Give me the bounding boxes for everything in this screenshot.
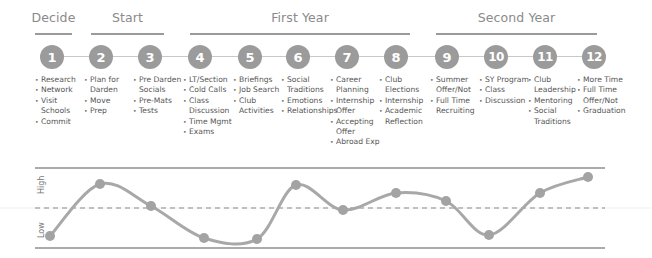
section-underline	[91, 33, 164, 35]
step-item: Visit	[35, 96, 76, 106]
step-circle-8: 8	[384, 45, 408, 69]
step-item: Career	[330, 75, 380, 85]
step-item: Offer	[330, 127, 380, 137]
step-item: Commit	[35, 117, 76, 127]
step-item: Traditions	[528, 117, 576, 127]
step-items-2: Plan forDardenMovePrep	[84, 75, 119, 117]
step-item: Offer/Not	[577, 96, 626, 106]
step-items-7: CareerPlanningInternshipOfferAcceptingOf…	[330, 75, 380, 148]
step-item: Reflection	[379, 117, 423, 127]
step-item: Prep	[84, 106, 119, 116]
timeline-connector	[52, 56, 594, 57]
section-underline	[436, 33, 597, 35]
step-items-12: More TimeFull TimeOffer/NotGraduation	[577, 75, 626, 117]
step-item: Club	[233, 96, 279, 106]
step-circle-2: 2	[89, 45, 113, 69]
step-item: Move	[84, 96, 119, 106]
data-point-1	[45, 231, 55, 241]
step-circle-9: 9	[435, 45, 459, 69]
step-items-11: ClubLeadershipMentoringSocialTraditions	[528, 75, 576, 127]
step-item: Darden	[84, 85, 119, 95]
step-item: Pre-Mats	[133, 96, 181, 106]
step-item: Club	[528, 75, 576, 85]
step-item: Full Time	[430, 96, 475, 106]
step-item: Internship	[379, 96, 423, 106]
step-item: Internship	[330, 96, 380, 106]
experience-curve	[50, 177, 588, 244]
step-item: Time Mgmt	[183, 117, 232, 127]
step-items-4: LT/SectionCold CallsClassDiscussionTime …	[183, 75, 232, 137]
step-items-1: ResearchNetworkVisitSchoolsCommit	[35, 75, 76, 127]
step-item: Planning	[330, 85, 380, 95]
step-item: Class	[183, 96, 232, 106]
step-item: Exams	[183, 127, 232, 137]
step-item: Cold Calls	[183, 85, 232, 95]
step-item: Offer/Not	[430, 85, 475, 95]
data-point-11	[535, 188, 545, 198]
step-item: Class	[479, 85, 529, 95]
step-item: Mentoring	[528, 96, 576, 106]
step-item: Discussion	[479, 96, 529, 106]
data-point-6	[291, 180, 301, 190]
data-point-12	[583, 172, 593, 182]
step-item: Summer	[430, 75, 475, 85]
step-item: Pre Darden	[133, 75, 181, 85]
data-point-10	[484, 230, 494, 240]
step-item: Tests	[133, 106, 181, 116]
section-title: First Year	[170, 10, 430, 25]
step-circle-3: 3	[138, 45, 162, 69]
step-item: More Time	[577, 75, 626, 85]
step-circle-12: 12	[582, 45, 606, 69]
data-point-8	[391, 188, 401, 198]
step-circle-5: 5	[238, 45, 262, 69]
step-items-8: ClubElectionsInternshipAcademicReflectio…	[379, 75, 423, 127]
data-point-5	[252, 234, 262, 244]
step-item: Full Time	[577, 85, 626, 95]
step-items-9: SummerOffer/NotFull TimeRecruiting	[430, 75, 475, 117]
step-item: Plan for	[84, 75, 119, 85]
step-item: Job Search	[233, 85, 279, 95]
step-circle-7: 7	[335, 45, 359, 69]
step-circle-10: 10	[484, 45, 508, 69]
step-circle-4: 4	[188, 45, 212, 69]
step-item: Schools	[35, 106, 76, 116]
step-item: Discussion	[183, 106, 232, 116]
step-circle-1: 1	[40, 45, 64, 69]
step-items-5: BriefingsJob SearchClubActivities	[233, 75, 279, 117]
section-title: Second Year	[416, 10, 617, 25]
data-point-2	[95, 179, 105, 189]
step-item: Research	[35, 75, 76, 85]
step-item: Abroad Exp	[330, 137, 380, 147]
step-items-10: SY ProgramClassDiscussion	[479, 75, 529, 106]
experience-chart: High Low	[0, 150, 652, 258]
step-item: Academic	[379, 106, 423, 116]
section-title: Start	[71, 10, 184, 25]
step-item: Elections	[379, 85, 423, 95]
step-item: Graduation	[577, 106, 626, 116]
step-item: Offer	[330, 106, 380, 116]
y-label-low: Low	[37, 222, 46, 238]
step-item: SY Program	[479, 75, 529, 85]
data-point-7	[338, 205, 348, 215]
step-item: Socials	[133, 85, 181, 95]
step-circle-11: 11	[533, 45, 557, 69]
section-underline	[190, 33, 410, 35]
step-item: Recruiting	[430, 106, 475, 116]
step-item: Club	[379, 75, 423, 85]
data-point-9	[441, 196, 451, 206]
step-item: Accepting	[330, 117, 380, 127]
step-items-3: Pre DardenSocialsPre-MatsTests	[133, 75, 181, 117]
step-item: Network	[35, 85, 76, 95]
data-point-3	[146, 201, 156, 211]
data-point-4	[199, 233, 209, 243]
y-label-high: High	[37, 176, 46, 194]
step-item: LT/Section	[183, 75, 232, 85]
step-circle-6: 6	[286, 45, 310, 69]
step-item: Social	[528, 106, 576, 116]
step-item: Activities	[233, 106, 279, 116]
section-underline	[35, 33, 72, 35]
step-item: Briefings	[233, 75, 279, 85]
step-item: Leadership	[528, 85, 576, 95]
